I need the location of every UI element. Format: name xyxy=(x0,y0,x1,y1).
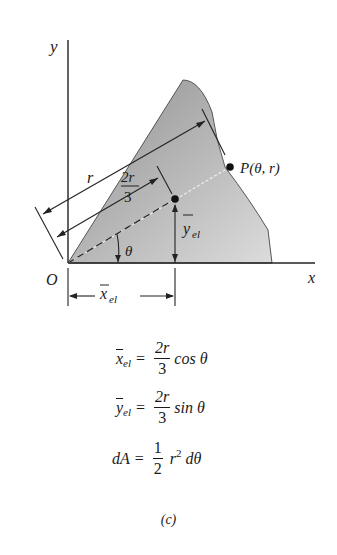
x-axis-label: x xyxy=(307,269,315,286)
equation-y-el: yel = 2r3 sin θ xyxy=(116,389,205,426)
y-el-subscript: el xyxy=(192,228,200,240)
x-el-arrow-right xyxy=(166,293,174,299)
eq2-lhs: y xyxy=(116,399,123,417)
y-el-label: y xyxy=(181,220,191,238)
eq2-num: 2r xyxy=(154,389,170,408)
eq2-rhs: sin θ xyxy=(174,399,205,417)
eq1-rhs: cos θ xyxy=(174,350,207,368)
y-axis-label: y xyxy=(48,37,58,56)
eq3-num: 1 xyxy=(153,440,163,459)
two-thirds-numerator: 2r xyxy=(121,169,135,185)
r-label: r xyxy=(87,169,94,186)
polar-area-diagram: y x O P(θ, r) r 2r 3 θ y el x el xyxy=(0,0,337,340)
eq3-fraction: 12 xyxy=(153,440,163,477)
eq2-den: 3 xyxy=(158,408,166,426)
r-tick-start xyxy=(35,207,63,259)
equation-dA: dA = 12 r2 dθ xyxy=(112,440,201,477)
two-thirds-denominator: 3 xyxy=(124,189,132,205)
x-el-subscript: el xyxy=(109,293,117,305)
eq1-num: 2r xyxy=(154,340,170,359)
origin-label: O xyxy=(46,271,58,288)
r-arrow-head-start xyxy=(43,207,52,214)
eq1-fraction: 2r3 xyxy=(154,340,170,377)
point-p-label: P(θ, r) xyxy=(239,160,280,177)
point-p xyxy=(226,163,234,171)
x-el-arrow-left xyxy=(69,293,77,299)
eq1-lhs-sub: el xyxy=(123,357,131,369)
theta-label: θ xyxy=(125,243,133,259)
x-el-label: x xyxy=(99,285,107,302)
eq2-equals: = xyxy=(136,399,145,417)
eq2-fraction: 2r3 xyxy=(154,389,170,426)
two-thirds-arrow-head-start xyxy=(57,230,66,237)
eq2-lhs-sub: el xyxy=(123,406,131,418)
equation-x-el: xel = 2r3 cos θ xyxy=(116,340,208,377)
centroid-point xyxy=(171,195,179,203)
figure-caption: (c) xyxy=(0,512,337,528)
eq3-lhs: dA xyxy=(112,450,130,468)
eq3-rhs: dθ xyxy=(186,450,202,468)
eq3-equals: = xyxy=(135,450,144,468)
eq3-den: 2 xyxy=(154,459,162,477)
eq1-den: 3 xyxy=(158,359,166,377)
eq1-lhs: x xyxy=(116,350,123,368)
eq1-equals: = xyxy=(136,350,145,368)
eq3-sup: 2 xyxy=(176,447,182,459)
